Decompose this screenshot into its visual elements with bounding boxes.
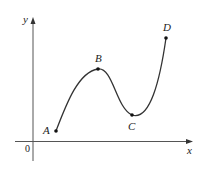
y-axis-label: y	[23, 14, 28, 25]
graph-canvas	[0, 0, 203, 172]
point-d-dot	[164, 36, 168, 40]
point-c-label: C	[128, 121, 135, 132]
point-b-label: B	[95, 53, 102, 64]
point-b-dot	[96, 67, 100, 71]
function-graph-figure: y x 0 A B C D	[0, 0, 203, 172]
function-curve	[56, 38, 166, 131]
x-axis-label: x	[187, 145, 192, 156]
y-axis-arrow-icon	[31, 17, 36, 24]
point-c-dot	[130, 113, 134, 117]
point-d-label: D	[163, 22, 171, 33]
origin-label: 0	[25, 144, 30, 154]
point-a-label: A	[43, 125, 50, 136]
point-a-dot	[54, 129, 58, 133]
